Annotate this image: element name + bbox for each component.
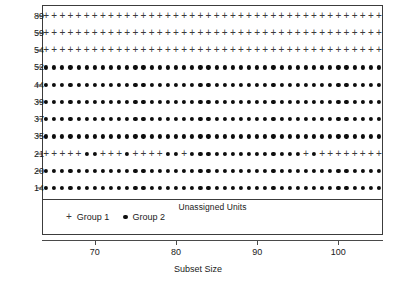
y-tick-label-35: 35	[22, 131, 44, 141]
dot-marker-icon	[125, 100, 129, 104]
dot-marker-icon	[101, 169, 105, 173]
plus-marker-icon: +	[270, 28, 276, 38]
dot-marker-icon	[214, 117, 218, 121]
plus-marker-icon: +	[141, 45, 147, 55]
dot-marker-icon	[214, 83, 218, 87]
plus-marker-icon: +	[230, 45, 236, 55]
dot-marker-icon	[296, 152, 300, 156]
dot-marker-icon	[52, 83, 56, 87]
dot-marker-icon	[231, 169, 235, 173]
dot-marker-icon	[361, 169, 365, 173]
legend-label-group-1: Group 1	[77, 212, 110, 222]
plus-marker-icon: +	[287, 45, 293, 55]
y-tick-label-21: 21	[22, 149, 44, 159]
dot-marker-icon	[182, 100, 186, 104]
plus-marker-icon: +	[344, 11, 350, 21]
dot-marker-icon	[85, 134, 89, 138]
dot-marker-icon	[344, 117, 348, 121]
dot-marker-icon	[296, 65, 300, 69]
dot-marker-icon	[271, 100, 275, 104]
plus-marker-icon: +	[214, 28, 220, 38]
dot-marker-icon	[288, 152, 292, 156]
dot-marker-icon	[158, 186, 162, 190]
dot-marker-icon	[336, 83, 340, 87]
dot-marker-icon	[214, 152, 218, 156]
dot-marker-icon	[239, 100, 243, 104]
plus-marker-icon: +	[84, 28, 90, 38]
plus-marker-icon: +	[295, 11, 301, 21]
dot-marker-icon	[60, 186, 64, 190]
plus-marker-icon: +	[344, 45, 350, 55]
dot-marker-icon	[263, 186, 267, 190]
dot-marker-icon	[312, 83, 316, 87]
dot-marker-icon	[255, 65, 259, 69]
dot-marker-icon	[239, 152, 243, 156]
plus-marker-icon: +	[76, 11, 82, 21]
dot-marker-icon	[68, 186, 72, 190]
plus-marker-icon: +	[76, 45, 82, 55]
dot-marker-icon	[68, 169, 72, 173]
dot-marker-icon	[296, 169, 300, 173]
dot-marker-icon	[133, 100, 137, 104]
dot-marker-icon	[231, 100, 235, 104]
dot-marker-icon	[279, 117, 283, 121]
dot-marker-icon	[352, 100, 356, 104]
plus-marker-icon: +	[92, 11, 98, 21]
dot-marker-icon	[60, 100, 64, 104]
y-tick-label-37: 37	[22, 114, 44, 124]
plus-marker-icon: +	[270, 45, 276, 55]
dot-marker-icon	[117, 100, 121, 104]
dot-marker-icon	[336, 186, 340, 190]
plus-marker-icon: +	[368, 28, 374, 38]
plus-marker-icon: +	[76, 149, 82, 159]
dot-marker-icon	[263, 152, 267, 156]
dot-marker-icon	[44, 100, 48, 104]
dot-marker-icon	[344, 169, 348, 173]
dot-marker-icon	[223, 152, 227, 156]
dot-marker-icon	[44, 117, 48, 121]
plus-marker-icon: +	[238, 11, 244, 21]
dot-marker-icon	[344, 65, 348, 69]
dot-marker-icon	[52, 186, 56, 190]
dot-marker-icon	[182, 83, 186, 87]
dot-marker-icon	[158, 169, 162, 173]
dot-marker-icon	[369, 65, 373, 69]
plus-marker-icon: +	[132, 28, 138, 38]
plus-marker-icon: +	[149, 149, 155, 159]
plus-marker-icon: +	[51, 149, 57, 159]
dot-marker-icon	[296, 117, 300, 121]
legend-entry-group-2: Group 2	[123, 212, 165, 222]
dot-marker-icon	[255, 134, 259, 138]
plus-marker-icon: +	[262, 45, 268, 55]
dot-marker-icon	[141, 169, 145, 173]
dot-marker-icon	[158, 117, 162, 121]
dot-marker-icon	[68, 83, 72, 87]
dot-marker-icon	[271, 169, 275, 173]
dot-marker-icon	[214, 134, 218, 138]
plus-marker-icon: +	[108, 11, 114, 21]
plus-marker-icon: +	[149, 45, 155, 55]
plus-marker-icon: +	[319, 28, 325, 38]
plus-marker-icon: +	[352, 28, 358, 38]
dot-marker-icon	[206, 186, 210, 190]
dot-marker-icon	[123, 215, 127, 219]
dot-marker-icon	[344, 83, 348, 87]
dot-marker-icon	[198, 134, 202, 138]
plus-marker-icon: +	[197, 28, 203, 38]
dot-marker-icon	[377, 186, 381, 190]
dot-marker-icon	[52, 169, 56, 173]
plus-marker-icon: +	[376, 28, 382, 38]
dot-marker-icon	[76, 100, 80, 104]
plus-marker-icon: +	[319, 11, 325, 21]
dot-marker-icon	[44, 169, 48, 173]
plus-marker-icon: +	[181, 11, 187, 21]
dot-marker-icon	[60, 65, 64, 69]
dot-marker-icon	[150, 186, 154, 190]
dot-marker-icon	[263, 100, 267, 104]
dot-marker-icon	[190, 152, 194, 156]
dot-marker-icon	[158, 100, 162, 104]
dot-marker-icon	[109, 117, 113, 121]
dot-marker-icon	[279, 169, 283, 173]
plus-marker-icon: +	[279, 28, 285, 38]
dot-marker-icon	[44, 186, 48, 190]
